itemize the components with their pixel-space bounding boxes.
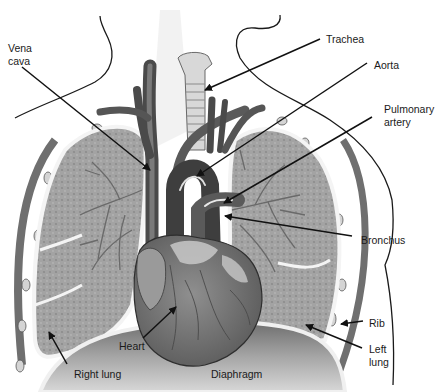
label-left-lung: Left lung <box>369 343 389 369</box>
label-pulmonary-artery: Pulmonary artery <box>384 103 434 129</box>
label-vena-cava: Vena cava <box>8 42 32 68</box>
label-aorta: Aorta <box>374 59 399 72</box>
label-diaphragm: Diaphragm <box>211 368 262 381</box>
label-bronchus: Bronchus <box>361 234 405 247</box>
label-trachea: Trachea <box>326 33 364 46</box>
label-right-lung: Right lung <box>74 368 121 381</box>
label-rib: Rib <box>369 317 385 330</box>
label-heart: Heart <box>119 340 145 353</box>
right-lung-shape <box>34 127 146 357</box>
